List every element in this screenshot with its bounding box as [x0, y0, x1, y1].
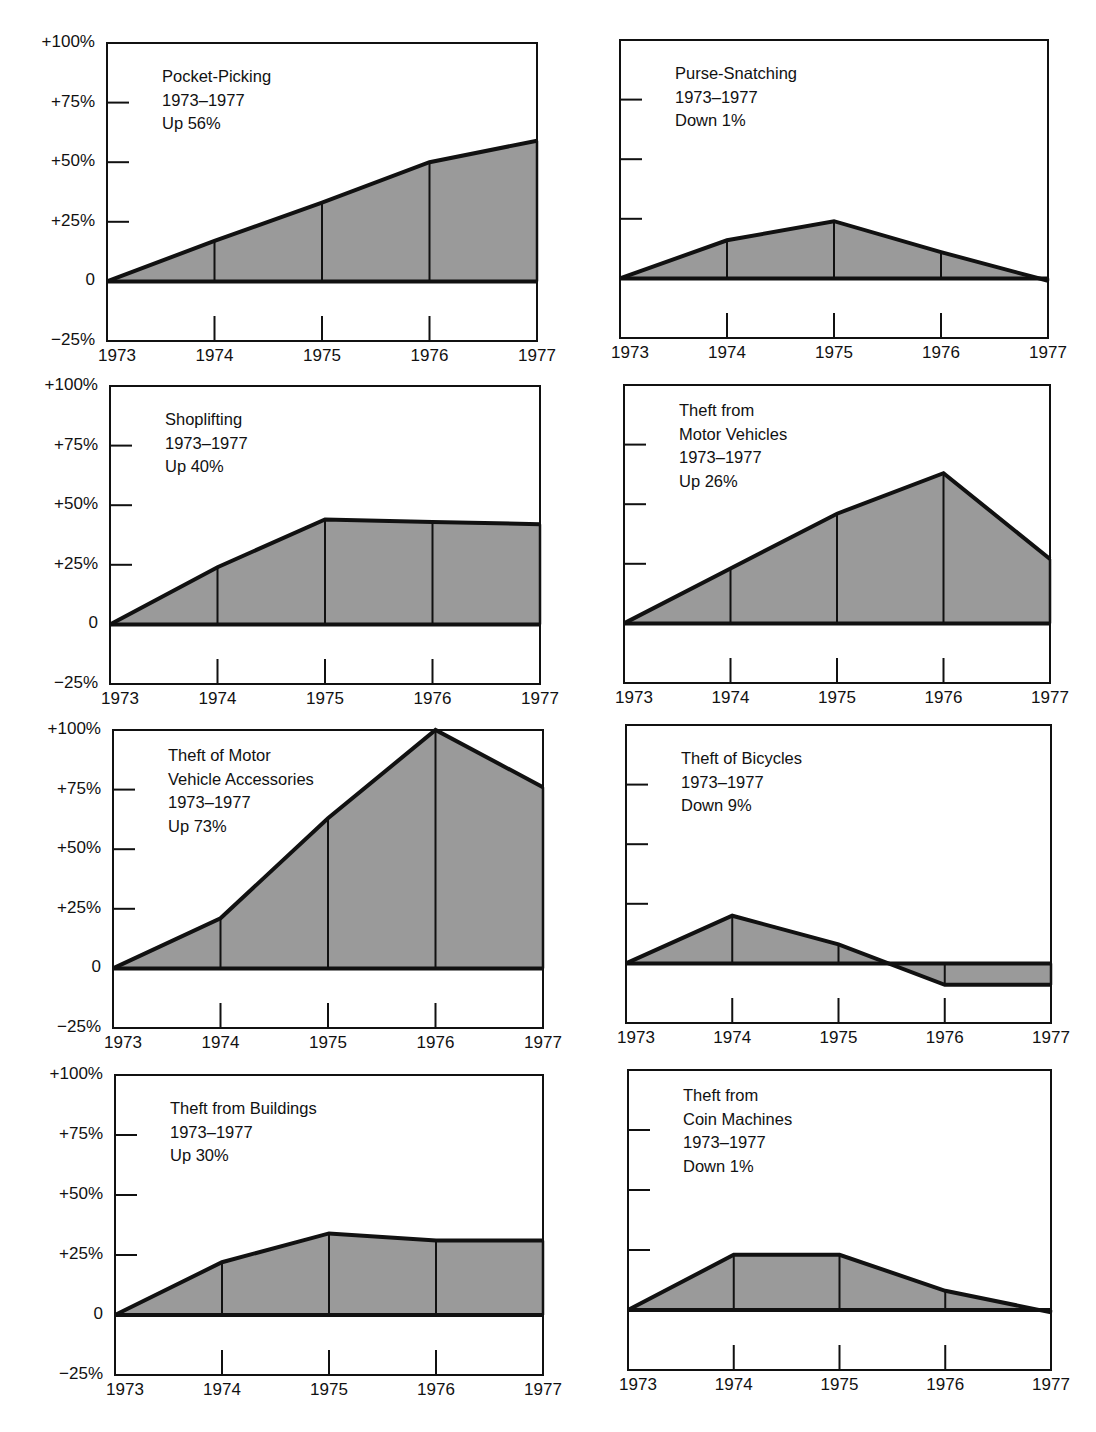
area-chart — [0, 0, 1096, 1432]
x-axis-label: 1976 — [926, 1375, 964, 1395]
panel-title: Theft from — [683, 1084, 792, 1108]
panel-summary: Down 1% — [683, 1155, 792, 1179]
panel-annotation: Theft fromCoin Machines1973–1977Down 1% — [683, 1084, 792, 1178]
panel-title: Coin Machines — [683, 1108, 792, 1132]
x-axis-label: 1973 — [619, 1375, 657, 1395]
x-axis-label: 1975 — [821, 1375, 859, 1395]
panel-period: 1973–1977 — [683, 1131, 792, 1155]
x-axis-label: 1977 — [1032, 1375, 1070, 1395]
x-axis-label: 1974 — [715, 1375, 753, 1395]
